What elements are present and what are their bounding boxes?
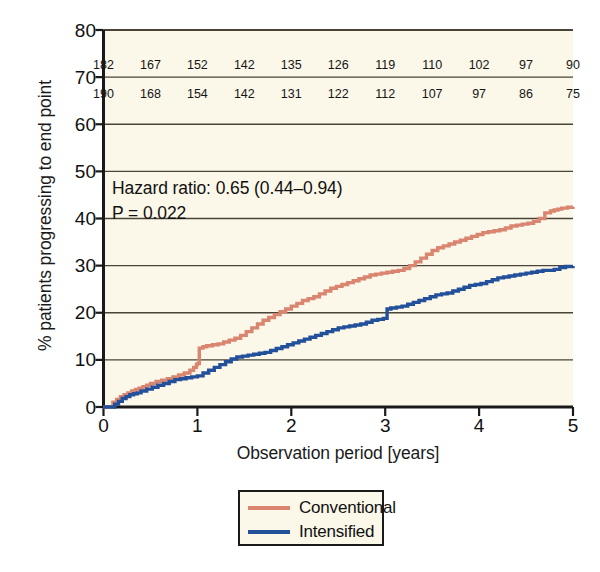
x-axis-label: Observation period [years] [103, 443, 573, 464]
risk-value: 154 [175, 85, 219, 103]
risk-value: 131 [269, 85, 313, 103]
risk-value: 97 [504, 56, 548, 74]
risk-value: 167 [128, 56, 172, 74]
x-tick-label-2: 2 [271, 416, 311, 435]
legend-item-conventional: Conventional [248, 496, 396, 520]
risk-value: 142 [222, 56, 266, 74]
risk-value: 135 [269, 56, 313, 74]
risk-value: 168 [128, 85, 172, 103]
risk-value: 110 [410, 56, 454, 74]
risk-row-conventional: 1821671521421351261191101029790 [0, 56, 600, 74]
risk-value: 107 [410, 85, 454, 103]
x-tick-label-5: 5 [553, 416, 593, 435]
legend-item-intensified: Intensified [248, 520, 374, 544]
x-tick-label-4: 4 [459, 416, 499, 435]
statistics-annotation: Hazard ratio: 0.65 (0.44–0.94) P = 0.022 [112, 176, 342, 226]
legend-swatch-conventional [248, 506, 290, 510]
risk-value: 152 [175, 56, 219, 74]
chart-legend: Conventional Intensified [238, 490, 384, 546]
legend-label-conventional: Conventional [299, 498, 396, 518]
hazard-ratio-text: Hazard ratio: 0.65 (0.44–0.94) [112, 176, 342, 201]
x-tick-label-3: 3 [365, 416, 405, 435]
x-tick-label-0: 0 [84, 416, 124, 435]
legend-swatch-intensified [248, 530, 290, 534]
risk-value: 190 [82, 85, 126, 103]
x-tick-label-1: 1 [177, 416, 217, 435]
p-value-text: P = 0.022 [112, 201, 342, 226]
risk-value: 119 [363, 56, 407, 74]
risk-value: 126 [316, 56, 360, 74]
risk-value: 122 [316, 85, 360, 103]
risk-value: 112 [363, 85, 407, 103]
risk-value: 97 [457, 85, 501, 103]
risk-row-intensified: 190168154142131122112107978675 [0, 85, 600, 103]
risk-value: 86 [504, 85, 548, 103]
risk-value: 75 [551, 85, 595, 103]
kaplan-meier-figure: % patients progressing to end point 0102… [0, 0, 600, 572]
risk-value: 142 [222, 85, 266, 103]
risk-value: 90 [551, 56, 595, 74]
risk-value: 182 [82, 56, 126, 74]
legend-label-intensified: Intensified [299, 522, 374, 542]
risk-value: 102 [457, 56, 501, 74]
